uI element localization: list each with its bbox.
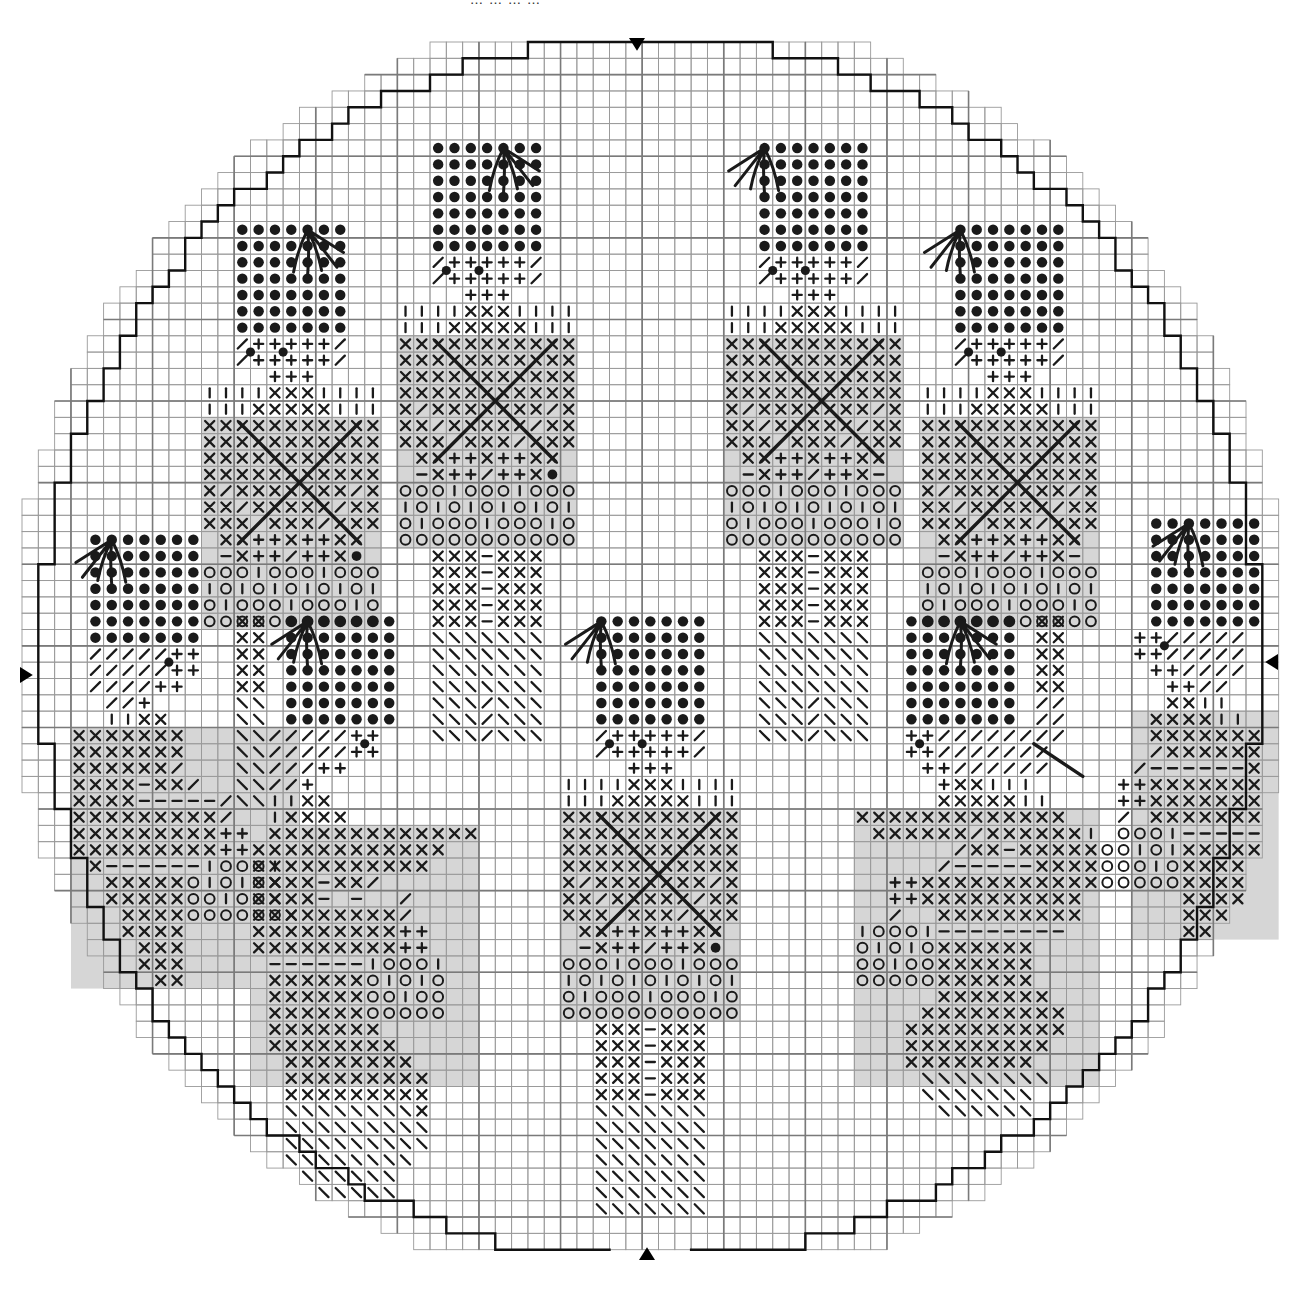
grid-cell xyxy=(658,303,674,319)
grid-cell xyxy=(577,189,593,205)
grid-cell xyxy=(577,1070,593,1086)
grid-cell xyxy=(430,1168,446,1184)
grid-cell xyxy=(446,58,462,74)
grid-cell xyxy=(267,205,283,221)
grid-cell xyxy=(642,499,658,515)
grid-cell xyxy=(479,1201,495,1217)
grid-cell xyxy=(1034,140,1050,156)
grid-cell xyxy=(169,303,185,319)
grid-cell xyxy=(756,58,772,74)
grid-cell xyxy=(756,825,772,841)
grid-cell xyxy=(577,156,593,172)
grid-cell xyxy=(691,564,707,580)
grid-cell xyxy=(838,91,854,107)
grid-cell xyxy=(838,874,854,890)
grid-cell xyxy=(871,727,887,743)
grid-cell xyxy=(675,189,691,205)
grid-cell xyxy=(724,254,740,270)
grid-cell xyxy=(528,1152,544,1168)
grid-cell xyxy=(544,1119,560,1135)
grid-cell xyxy=(55,613,71,629)
grid-cell xyxy=(577,564,593,580)
grid-cell xyxy=(1115,417,1131,433)
grid-cell xyxy=(838,124,854,140)
grid-cell xyxy=(495,1070,511,1086)
grid-cell xyxy=(577,466,593,482)
grid-cell xyxy=(707,385,723,401)
grid-cell xyxy=(495,1217,511,1233)
grid-cell xyxy=(610,287,626,303)
grid-cell xyxy=(365,107,381,123)
grid-cell xyxy=(707,254,723,270)
tassel-backstitch xyxy=(924,230,974,276)
grid-cell xyxy=(55,401,71,417)
grid-cell xyxy=(561,1201,577,1217)
grid-cell xyxy=(283,205,299,221)
grid-cell xyxy=(1230,434,1246,450)
grid-cell xyxy=(55,630,71,646)
grid-cell xyxy=(1066,695,1082,711)
grid-cell xyxy=(1115,989,1131,1005)
grid-cell xyxy=(1230,678,1246,694)
grid-cell xyxy=(397,630,413,646)
grid-cell xyxy=(871,711,887,727)
grid-cell xyxy=(561,1086,577,1102)
grid-cell xyxy=(871,695,887,711)
grid-cell xyxy=(969,189,985,205)
grid-cell xyxy=(838,1168,854,1184)
grid-cell xyxy=(773,75,789,91)
grid-cell xyxy=(430,1103,446,1119)
grid-cell xyxy=(544,825,560,841)
grid-cell xyxy=(577,581,593,597)
grid-cell xyxy=(202,222,218,238)
grid-cell xyxy=(479,1184,495,1200)
grid-cell xyxy=(1148,352,1164,368)
grid-cell xyxy=(1099,1005,1115,1021)
grid-cell xyxy=(920,1201,936,1217)
grid-cell xyxy=(822,1070,838,1086)
grid-cell xyxy=(838,58,854,74)
grid-cell xyxy=(463,744,479,760)
grid-cell xyxy=(969,1135,985,1151)
grid-cell xyxy=(397,91,413,107)
grid-cell xyxy=(838,42,854,58)
grid-cell xyxy=(1213,385,1229,401)
grid-cell xyxy=(691,336,707,352)
grid-cell xyxy=(185,515,201,531)
grid-cell xyxy=(479,793,495,809)
grid-cell xyxy=(1083,303,1099,319)
grid-cell xyxy=(283,156,299,172)
grid-cell xyxy=(348,205,364,221)
grid-cell xyxy=(397,678,413,694)
grid-cell xyxy=(593,483,609,499)
grid-cell xyxy=(707,401,723,417)
grid-cell xyxy=(952,124,968,140)
grid-cell xyxy=(626,91,642,107)
grid-cell xyxy=(610,156,626,172)
grid-cell xyxy=(185,319,201,335)
grid-cell xyxy=(691,124,707,140)
grid-cell xyxy=(332,124,348,140)
grid-cell xyxy=(463,809,479,825)
grid-cell xyxy=(561,254,577,270)
grid-cell xyxy=(871,581,887,597)
grid-cell xyxy=(1262,630,1278,646)
grid-cell xyxy=(773,891,789,907)
grid-cell xyxy=(691,254,707,270)
grid-cell xyxy=(920,776,936,792)
grid-cell xyxy=(414,1233,430,1249)
grid-cell xyxy=(707,744,723,760)
grid-cell xyxy=(740,270,756,286)
grid-cell xyxy=(642,581,658,597)
grid-cell xyxy=(887,58,903,74)
grid-cell xyxy=(495,1103,511,1119)
grid-cell xyxy=(512,891,528,907)
grid-cell xyxy=(593,140,609,156)
grid-cell xyxy=(1099,336,1115,352)
grid-cell xyxy=(658,173,674,189)
grid-cell xyxy=(136,1021,152,1037)
grid-cell xyxy=(1132,1021,1148,1037)
grid-cell xyxy=(789,744,805,760)
grid-cell xyxy=(593,270,609,286)
grid-cell xyxy=(512,907,528,923)
